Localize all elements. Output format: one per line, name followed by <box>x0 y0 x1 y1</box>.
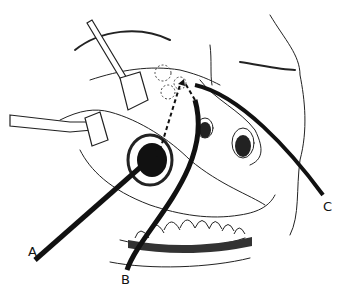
label-a: A <box>28 245 37 258</box>
illustration-drawing <box>0 0 338 291</box>
label-b: B <box>121 273 130 286</box>
label-c: C <box>323 200 332 213</box>
